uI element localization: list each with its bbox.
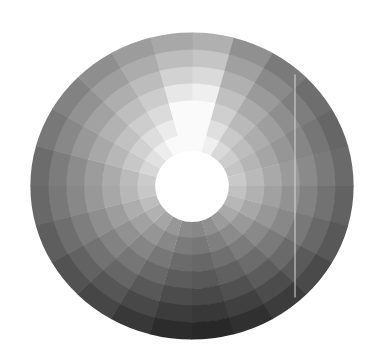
center-hole xyxy=(157,154,227,222)
color-wheel xyxy=(0,0,379,360)
value-wheel-graphic xyxy=(0,0,379,360)
